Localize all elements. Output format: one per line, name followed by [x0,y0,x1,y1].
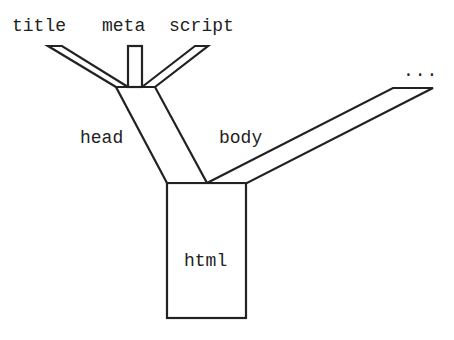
tree-branches [0,0,454,340]
script-label: script [169,17,234,35]
head-label: head [80,129,123,147]
script-branch [142,46,208,87]
html-label: html [184,252,227,270]
meta-branch [128,46,142,87]
meta-label: meta [102,17,145,35]
head-branch [116,87,207,183]
body-label: body [219,129,262,147]
title-label: title [12,17,66,35]
ellipsis-label: ... [403,62,438,80]
title-branch [48,46,128,87]
html-tree-diagram: title meta script head body ... html [0,0,454,340]
